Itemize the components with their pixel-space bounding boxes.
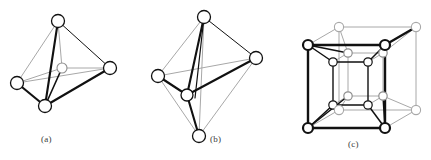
atom-right [250,52,263,65]
panel-octahedron [135,0,280,160]
atom-top-apex [198,11,211,24]
inner-cube-atoms [329,49,387,109]
atom-outer-front-top-left [303,40,313,50]
atom-right [104,62,117,75]
edge-top-right [58,21,110,68]
caption-panel-b: (b) [210,134,221,144]
octahedron-front-edges [158,17,256,136]
atom-left [152,70,165,83]
atom-outer-back-bottom-left [334,105,343,114]
atom-outer-front-top-right [380,40,390,50]
atom-inner-back-top-left [344,49,352,57]
atom-left [11,77,24,90]
caption-panel-c: (c) [348,139,359,149]
atom-outer-front-bottom-left [303,123,313,133]
panel-cube [280,0,431,160]
octahedron-atoms [152,11,263,143]
caption-panel-a: (a) [41,134,52,144]
tetrahedron-back-edges [17,21,110,83]
octahedron-back-edges [158,17,256,136]
edge-top-left [17,21,58,83]
panel-tetrahedron [0,0,145,160]
atom-outer-back-top-right [411,22,420,31]
atom-inner-front-top-right [364,58,372,66]
atom-bottom-apex [193,130,206,143]
edge-left-bottom [158,76,199,136]
atom-inner-front-top-left [329,58,337,66]
atom-front [181,89,193,101]
edge-top-right [204,17,256,58]
atom-inner-front-bottom-right [364,101,372,109]
bond-bbr-ibbr [383,96,416,110]
edge-right-bottom [199,58,256,136]
atom-top [52,15,65,28]
atom-bottom [39,100,52,113]
coordination-polyhedra-figure: (a) (b) (c) [0,0,431,160]
atom-outer-back-bottom-right [411,105,420,114]
atom-outer-front-bottom-right [380,123,390,133]
atom-inner-back-bottom-right [379,92,387,100]
tetrahedron-atoms [11,15,117,113]
atom-outer-back-top-left [334,22,343,31]
atom-inner-back-bottom-left [344,92,352,100]
inner-cube-back-edges [333,53,383,105]
atom-centre [57,63,67,73]
outer-cube-back-atoms [334,22,420,114]
